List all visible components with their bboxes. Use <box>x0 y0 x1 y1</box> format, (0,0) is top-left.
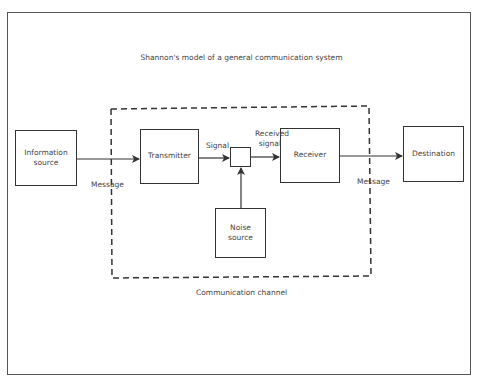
message-in-label: Message <box>91 180 124 190</box>
noise-source-label: Noise source <box>226 223 256 243</box>
noise-source-node: Noise source <box>215 208 266 258</box>
transmitter-node: Transmitter <box>140 129 199 184</box>
message-out-label: Message <box>357 177 390 187</box>
destination-label: Destination <box>412 149 455 159</box>
channel-label: Communication channel <box>196 288 287 298</box>
information-source-label: Information source <box>21 148 71 168</box>
receiver-label: Receiver <box>294 150 326 160</box>
signal-mixer-node <box>230 147 251 167</box>
destination-node: Destination <box>403 126 464 182</box>
information-source-node: Information source <box>15 130 77 186</box>
transmitter-label: Transmitter <box>148 151 191 161</box>
signal-label: Signal <box>206 141 229 151</box>
received-signal-label: Received signal <box>255 129 281 149</box>
receiver-node: Receiver <box>280 128 340 183</box>
connectors <box>0 0 483 385</box>
